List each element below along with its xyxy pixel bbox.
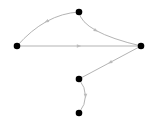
- arrowhead-D-E: [84, 94, 88, 98]
- graph-canvas: [0, 0, 153, 129]
- arrowhead-A-C: [93, 28, 99, 33]
- edge-D-E: [79, 79, 86, 113]
- edge-A-B: [17, 12, 79, 46]
- edge-A-C: [79, 12, 141, 46]
- edges: [17, 12, 141, 113]
- arrowhead-C-D: [107, 60, 113, 65]
- arrowhead-A-B: [44, 19, 50, 24]
- nodes: [14, 9, 145, 117]
- node-C: [138, 43, 145, 50]
- node-B: [14, 43, 21, 50]
- node-A: [76, 9, 83, 16]
- arrowhead-B-C: [77, 44, 81, 48]
- node-D: [76, 76, 83, 83]
- node-E: [76, 110, 83, 117]
